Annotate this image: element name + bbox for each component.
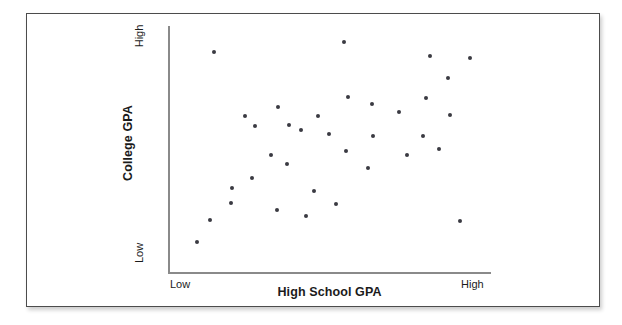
data-point bbox=[287, 123, 291, 127]
data-point bbox=[458, 219, 462, 223]
data-point bbox=[397, 110, 401, 114]
data-point bbox=[253, 124, 257, 128]
data-point bbox=[327, 132, 331, 136]
data-point bbox=[275, 208, 279, 212]
data-point bbox=[446, 76, 450, 80]
figure-card: High Low College GPA Low High High Schoo… bbox=[26, 13, 600, 307]
data-point bbox=[346, 95, 350, 99]
data-point bbox=[229, 201, 233, 205]
data-point bbox=[230, 186, 234, 190]
data-point bbox=[285, 162, 289, 166]
data-point bbox=[312, 189, 316, 193]
data-point bbox=[250, 176, 254, 180]
data-point bbox=[366, 166, 370, 170]
data-point bbox=[212, 50, 216, 54]
data-point bbox=[371, 134, 375, 138]
data-point bbox=[304, 214, 308, 218]
data-point bbox=[243, 114, 247, 118]
data-point bbox=[195, 240, 199, 244]
figure-page: High Low College GPA Low High High Schoo… bbox=[0, 0, 622, 325]
data-points-layer bbox=[27, 14, 601, 308]
y-axis-tick-high: High bbox=[133, 16, 145, 56]
data-point bbox=[299, 128, 303, 132]
y-axis-tick-low: Low bbox=[133, 233, 145, 273]
data-point bbox=[437, 147, 441, 151]
x-axis-title: High School GPA bbox=[168, 285, 491, 299]
data-point bbox=[468, 56, 472, 60]
data-point bbox=[421, 134, 425, 138]
data-point bbox=[208, 218, 212, 222]
data-point bbox=[424, 96, 428, 100]
data-point bbox=[342, 40, 346, 44]
data-point bbox=[405, 153, 409, 157]
data-point bbox=[448, 113, 452, 117]
y-axis-title: College GPA bbox=[121, 78, 135, 208]
data-point bbox=[316, 114, 320, 118]
data-point bbox=[276, 105, 280, 109]
data-point bbox=[370, 102, 374, 106]
data-point bbox=[428, 54, 432, 58]
scatter-plot: High Low College GPA Low High High Schoo… bbox=[27, 14, 601, 308]
data-point bbox=[269, 153, 273, 157]
data-point bbox=[334, 202, 338, 206]
data-point bbox=[344, 149, 348, 153]
